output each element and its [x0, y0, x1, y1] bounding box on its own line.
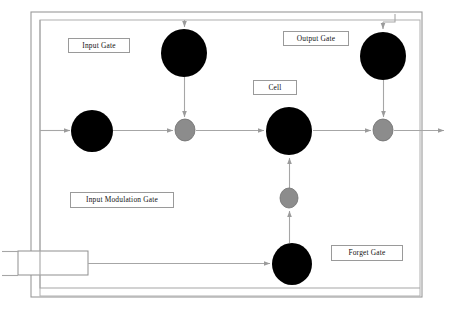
label-input-modulation-gate: Input Modulation Gate: [70, 192, 174, 208]
forget-multiply-node: [280, 188, 298, 208]
label-output-gate: Output Gate: [283, 31, 349, 46]
lstm-diagram-canvas: Input Gate Output Gate Cell Input Modula…: [0, 0, 452, 313]
cell-node: [266, 107, 312, 155]
label-output-gate-text: Output Gate: [297, 35, 336, 42]
label-forget-gate-text: Forget Gate: [348, 249, 385, 256]
input-gate-node: [161, 29, 207, 77]
label-cell: Cell: [253, 80, 297, 95]
output-gate-node: [360, 32, 406, 80]
forget-gate-node: [272, 243, 312, 285]
label-input-gate: Input Gate: [68, 38, 130, 53]
label-cell-text: Cell: [268, 84, 281, 91]
input-stub-group: [18, 251, 88, 275]
output-multiply-node: [373, 119, 393, 141]
input-multiply-node: [175, 119, 195, 141]
input-stub-box: [18, 251, 88, 275]
input-node: [71, 110, 113, 152]
label-input-gate-text: Input Gate: [82, 42, 115, 49]
label-input-modulation-gate-text: Input Modulation Gate: [86, 196, 158, 203]
label-forget-gate: Forget Gate: [331, 245, 403, 261]
connector-recurrent-top-rail: [383, 14, 395, 22]
